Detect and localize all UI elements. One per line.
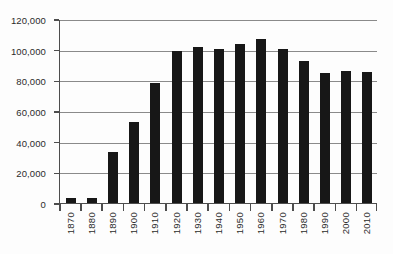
x-tick-mark: [144, 204, 146, 211]
x-tick-label: 1910: [149, 212, 160, 234]
y-axis: 020,00040,00060,00080,000100,000120,000: [0, 20, 54, 204]
bar: [66, 198, 76, 203]
bar: [150, 83, 160, 203]
x-tick-mark: [59, 204, 61, 211]
bars-group: [60, 20, 377, 203]
x-tick-label: 2000: [340, 212, 351, 234]
bar: [278, 49, 288, 203]
x-tick-mark: [123, 204, 125, 211]
x-tick-mark: [80, 204, 82, 211]
y-tick-label: 20,000: [16, 168, 46, 179]
bar: [87, 198, 97, 203]
x-tick-label: 1920: [171, 212, 182, 234]
y-tick-label: 40,000: [16, 137, 46, 148]
x-tick-label: 1930: [192, 212, 203, 234]
x-tick-label: 2010: [361, 212, 372, 234]
x-tick-mark: [356, 204, 358, 211]
x-tick-label: 1900: [128, 212, 139, 234]
y-tick-label: 120,000: [11, 15, 46, 26]
x-tick-label: 1880: [86, 212, 97, 234]
bar-chart: 020,00040,00060,00080,000100,000120,000 …: [0, 0, 393, 254]
x-tick-label: 1940: [213, 212, 224, 234]
bar: [341, 71, 351, 203]
bar: [235, 44, 245, 203]
y-tick-label: 100,000: [11, 45, 46, 56]
plot-area: [59, 20, 377, 204]
x-tick-label: 1990: [319, 212, 330, 234]
x-tick-mark: [335, 204, 337, 211]
x-tick-mark: [101, 204, 103, 211]
bar: [214, 49, 224, 203]
x-tick-label: 1890: [107, 212, 118, 234]
x-tick-mark: [313, 204, 315, 211]
x-tick-mark: [376, 204, 378, 211]
x-tick-mark: [186, 204, 188, 211]
x-tick-mark: [207, 204, 209, 211]
x-tick-label: 1870: [65, 212, 76, 234]
x-tick-mark: [292, 204, 294, 211]
x-tick-label: 1980: [298, 212, 309, 234]
bar: [362, 72, 372, 203]
bar: [320, 73, 330, 203]
bar: [129, 122, 139, 203]
x-tick-mark: [250, 204, 252, 211]
x-tick-mark: [165, 204, 167, 211]
y-tick-label: 60,000: [16, 107, 46, 118]
x-tick-label: 1970: [277, 212, 288, 234]
x-tick-mark: [271, 204, 273, 211]
bar: [108, 152, 118, 203]
x-tick-label: 1950: [234, 212, 245, 234]
bar: [172, 51, 182, 203]
bar: [193, 47, 203, 203]
y-tick-label: 80,000: [16, 76, 46, 87]
x-axis-labels: 1870188018901900191019201930194019501960…: [59, 212, 377, 252]
y-tick-label: 0: [41, 199, 46, 210]
x-tick-label: 1960: [255, 212, 266, 234]
x-axis-ticks: [59, 204, 377, 211]
x-tick-mark: [229, 204, 231, 211]
bar: [256, 39, 266, 203]
bar: [299, 61, 309, 203]
